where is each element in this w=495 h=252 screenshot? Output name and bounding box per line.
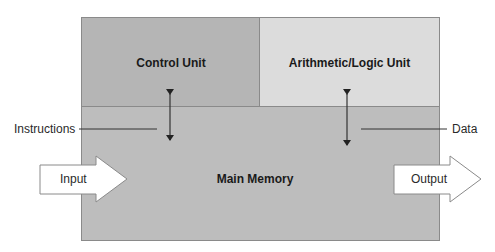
data-label: Data [452, 122, 477, 136]
control-unit-label: Control Unit [82, 56, 260, 70]
alu-label: Arithmetic/Logic Unit [260, 56, 439, 70]
output-label: Output [411, 172, 447, 186]
input-label: Input [60, 172, 87, 186]
instructions-label: Instructions [14, 122, 75, 136]
main-memory-label: Main Memory [200, 172, 310, 186]
